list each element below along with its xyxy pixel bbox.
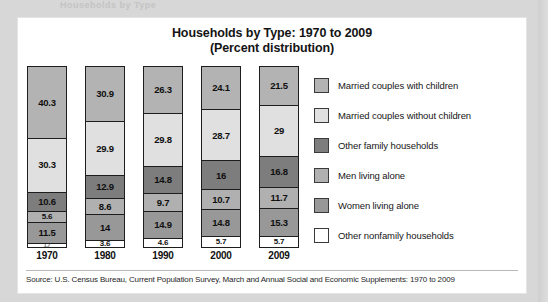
chart-figure: Households by Type: 1970 to 2009 (Percen… — [18, 18, 526, 293]
bar-segment[interactable]: 26.3 — [144, 67, 182, 114]
bar-column-2009: 21.52916.811.715.35.7 — [250, 66, 308, 248]
bar-segment[interactable]: 5.7 — [260, 237, 298, 247]
bar-segment[interactable]: 16.8 — [260, 157, 298, 187]
x-tick-2000: 2000 — [192, 250, 250, 268]
bar-segment-value: 3.6 — [100, 241, 111, 247]
bar-segment[interactable]: 14.8 — [144, 167, 182, 194]
bar-segment[interactable]: 11.7 — [260, 188, 298, 209]
source-note: Source: U.S. Census Bureau, Current Popu… — [26, 275, 521, 284]
stacked-bar[interactable]: 24.128.71610.714.85.7 — [201, 66, 241, 248]
bar-segment-value: 9.7 — [157, 198, 170, 208]
bar-segment[interactable]: 40.3 — [28, 67, 66, 139]
legend-item[interactable]: Married couples with children — [314, 70, 526, 100]
bar-segment[interactable]: 14.9 — [144, 212, 182, 239]
bar-segment-value: 29.9 — [96, 144, 114, 154]
legend-item[interactable]: Other family households — [314, 130, 526, 160]
chart-title-line-1: Households by Type: 1970 to 2009 — [18, 26, 526, 41]
legend-item-label: Married couples without children — [338, 110, 471, 121]
bar-segment-value: 14.8 — [212, 218, 230, 228]
bar-segment-value: 30.3 — [38, 160, 56, 170]
bar-segment-value: 5.7 — [274, 238, 285, 246]
bar-segment-value: 29.8 — [154, 135, 172, 145]
bar-segment-value: 40.3 — [38, 98, 56, 108]
legend-item[interactable]: Men living alone — [314, 160, 526, 190]
bar-column-1970: 40.330.310.65.611.51.7 — [18, 66, 76, 248]
legend-swatch-icon — [314, 198, 329, 213]
bar-segment-value: 12.9 — [96, 182, 114, 192]
legend-item-label: Women living alone — [338, 200, 419, 211]
bar-segment-value: 11.5 — [38, 228, 55, 238]
bar-segment-value: 29 — [274, 126, 284, 136]
x-tick-1990: 1990 — [134, 250, 192, 268]
legend-item-label: Other nonfamily households — [338, 230, 454, 241]
x-tick-1980: 1980 — [76, 250, 134, 268]
bar-segment[interactable]: 5.6 — [28, 212, 66, 223]
bar-segment-value: 5.6 — [42, 213, 53, 221]
plot-area: 40.330.310.65.611.51.730.929.912.98.6143… — [18, 66, 308, 271]
bar-segment[interactable]: 4.6 — [144, 239, 182, 247]
bar-segment[interactable]: 11.5 — [28, 223, 66, 244]
bar-segment[interactable]: 8.6 — [86, 199, 124, 215]
bar-segment-value: 16.8 — [270, 167, 288, 177]
bar-segment[interactable]: 29.9 — [86, 122, 124, 175]
chart-title-block: Households by Type: 1970 to 2009 (Percen… — [18, 26, 526, 56]
bar-segment[interactable]: 15.3 — [260, 209, 298, 237]
legend-swatch-icon — [314, 108, 329, 123]
bar-segment-value: 30.9 — [96, 89, 114, 99]
bar-segment[interactable]: 5.7 — [202, 237, 240, 247]
bar-segment[interactable]: 28.7 — [202, 110, 240, 161]
stacked-bar[interactable]: 21.52916.811.715.35.7 — [259, 66, 299, 248]
bar-segment-value: 10.7 — [212, 195, 230, 205]
x-axis-tick-labels: 19701980199020002009 — [18, 250, 308, 268]
screenshot-root: Households by Type Households by Type: 1… — [0, 0, 548, 302]
chart-legend: Married couples with childrenMarried cou… — [314, 70, 526, 250]
bar-segment[interactable]: 30.3 — [28, 139, 66, 193]
bar-segment[interactable]: 1.7 — [28, 244, 66, 247]
legend-swatch-icon — [314, 168, 329, 183]
stacked-bar-group: 40.330.310.65.611.51.730.929.912.98.6143… — [18, 66, 308, 248]
bar-segment-value: 24.1 — [212, 83, 230, 93]
bar-segment[interactable]: 29.8 — [144, 114, 182, 167]
legend-item[interactable]: Married couples without children — [314, 100, 526, 130]
bar-segment-value: 16 — [216, 171, 226, 181]
x-tick-2009: 2009 — [250, 250, 308, 268]
stacked-bar[interactable]: 30.929.912.98.6143.6 — [85, 66, 125, 248]
legend-swatch-icon — [314, 78, 329, 93]
bar-segment-value: 21.5 — [270, 81, 288, 91]
bar-segment-value: 1.7 — [44, 244, 50, 247]
chart-title-line-2: (Percent distribution) — [18, 41, 526, 56]
bar-column-1990: 26.329.814.89.714.94.6 — [134, 66, 192, 248]
bar-segment[interactable]: 14 — [86, 215, 124, 241]
source-divider — [26, 270, 518, 271]
scan-artifact-ghost-text: Households by Type — [60, 0, 320, 10]
bar-column-1980: 30.929.912.98.6143.6 — [76, 66, 134, 248]
bar-segment[interactable]: 12.9 — [86, 176, 124, 200]
bar-segment-value: 26.3 — [154, 85, 172, 95]
x-tick-1970: 1970 — [18, 250, 76, 268]
bar-segment[interactable]: 16 — [202, 161, 240, 190]
stacked-bar[interactable]: 26.329.814.89.714.94.6 — [143, 66, 183, 248]
page-edge-strip — [538, 0, 548, 302]
bar-segment[interactable]: 10.6 — [28, 193, 66, 213]
legend-item[interactable]: Women living alone — [314, 190, 526, 220]
legend-item-label: Other family households — [338, 140, 438, 151]
legend-swatch-icon — [314, 228, 329, 243]
legend-item-label: Married couples with children — [338, 80, 458, 91]
bar-segment-value: 14.9 — [154, 220, 172, 230]
bar-segment[interactable]: 3.6 — [86, 241, 124, 247]
stacked-bar[interactable]: 40.330.310.65.611.51.7 — [27, 66, 67, 248]
legend-item[interactable]: Other nonfamily households — [314, 220, 526, 250]
bar-segment-value: 15.3 — [270, 218, 288, 228]
bar-segment[interactable]: 9.7 — [144, 194, 182, 212]
bar-segment[interactable]: 10.7 — [202, 190, 240, 210]
bar-segment[interactable]: 29 — [260, 106, 298, 158]
bar-segment[interactable]: 21.5 — [260, 67, 298, 106]
bar-segment-value: 4.6 — [158, 239, 169, 247]
bar-segment[interactable]: 14.8 — [202, 210, 240, 237]
bar-segment-value: 28.7 — [212, 131, 230, 141]
legend-swatch-icon — [314, 138, 329, 153]
bar-segment[interactable]: 24.1 — [202, 67, 240, 110]
bar-segment[interactable]: 30.9 — [86, 67, 124, 122]
bar-segment-value: 14 — [100, 223, 110, 233]
bar-segment-value: 5.7 — [216, 238, 227, 246]
